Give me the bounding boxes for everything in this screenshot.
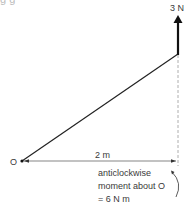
distance-label: 2 m bbox=[95, 150, 110, 160]
dimension-arrowhead-right-icon bbox=[171, 159, 176, 162]
pivot-point bbox=[20, 159, 23, 162]
moment-text-line-3: = 6 N m bbox=[98, 194, 130, 204]
moment-arc-icon bbox=[172, 172, 179, 197]
moment-text-line-2: moment about O bbox=[98, 181, 165, 191]
lever-line bbox=[22, 54, 178, 161]
force-label: 3 N bbox=[170, 3, 184, 13]
force-arrowhead-icon bbox=[174, 15, 183, 23]
pivot-label: O bbox=[10, 157, 17, 167]
moment-text-line-1: anticlockwise bbox=[98, 168, 151, 178]
moment-diagram bbox=[0, 0, 188, 205]
